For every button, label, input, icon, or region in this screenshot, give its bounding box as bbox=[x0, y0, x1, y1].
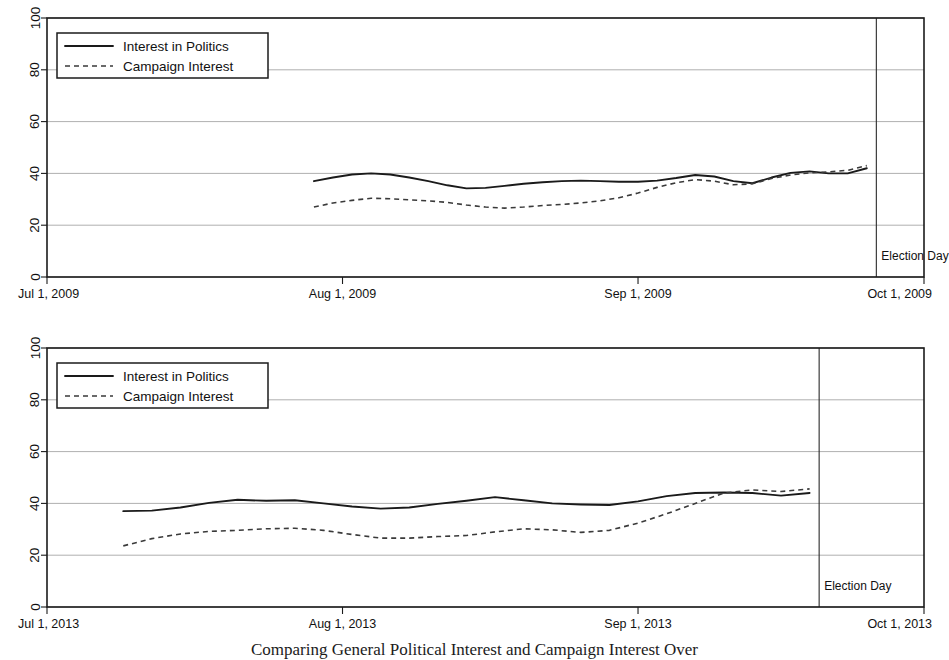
y-tick-label-60: 60 bbox=[28, 444, 43, 459]
chart-panel-2013: 020406080100Jul 1, 2013Aug 1, 2013Sep 1,… bbox=[0, 330, 949, 660]
legend-label-0: Interest in Politics bbox=[123, 39, 229, 54]
election-day-label: Election Day bbox=[881, 249, 948, 263]
legend-label-0: Interest in Politics bbox=[123, 369, 229, 384]
y-tick-label-20: 20 bbox=[28, 218, 43, 233]
y-axis: 020406080100 bbox=[28, 7, 48, 281]
y-tick-label-40: 40 bbox=[28, 496, 43, 511]
chart-svg-panel-2009: 020406080100Jul 1, 2009Aug 1, 2009Sep 1,… bbox=[0, 0, 949, 330]
legend: Interest in PoliticsCampaign Interest bbox=[57, 33, 268, 78]
series-campaign-interest bbox=[314, 166, 867, 208]
x-tick-label-3: Oct 1, 2009 bbox=[867, 287, 932, 301]
series-interest-in-politics bbox=[123, 493, 809, 512]
legend-label-1: Campaign Interest bbox=[123, 59, 234, 74]
chart-svg-panel-2013: 020406080100Jul 1, 2013Aug 1, 2013Sep 1,… bbox=[0, 330, 949, 660]
y-tick-label-0: 0 bbox=[28, 273, 43, 281]
y-tick-label-20: 20 bbox=[28, 548, 43, 563]
y-tick-label-100: 100 bbox=[28, 7, 43, 30]
x-tick-label-2: Sep 1, 2009 bbox=[604, 287, 671, 301]
x-tick-label-3: Oct 1, 2013 bbox=[867, 617, 932, 631]
x-axis: Jul 1, 2013Aug 1, 2013Sep 1, 2013Oct 1, … bbox=[18, 607, 932, 631]
election-day-label: Election Day bbox=[824, 579, 891, 593]
y-tick-label-0: 0 bbox=[28, 603, 43, 611]
y-tick-label-100: 100 bbox=[28, 337, 43, 360]
x-tick-label-1: Aug 1, 2013 bbox=[309, 617, 376, 631]
y-axis: 020406080100 bbox=[28, 337, 48, 611]
y-tick-label-60: 60 bbox=[28, 114, 43, 129]
legend: Interest in PoliticsCampaign Interest bbox=[57, 363, 268, 408]
x-tick-label-0: Jul 1, 2013 bbox=[18, 617, 79, 631]
series-campaign-interest bbox=[123, 489, 809, 546]
legend-label-1: Campaign Interest bbox=[123, 389, 234, 404]
x-tick-label-0: Jul 1, 2009 bbox=[18, 287, 79, 301]
x-tick-label-2: Sep 1, 2013 bbox=[604, 617, 671, 631]
x-tick-label-1: Aug 1, 2009 bbox=[309, 287, 376, 301]
figure-container: 020406080100Jul 1, 2009Aug 1, 2009Sep 1,… bbox=[0, 0, 949, 660]
x-axis: Jul 1, 2009Aug 1, 2009Sep 1, 2009Oct 1, … bbox=[18, 277, 932, 301]
chart-panel-2009: 020406080100Jul 1, 2009Aug 1, 2009Sep 1,… bbox=[0, 0, 949, 330]
figure-caption: Comparing General Political Interest and… bbox=[0, 640, 949, 660]
y-tick-label-40: 40 bbox=[28, 166, 43, 181]
y-tick-label-80: 80 bbox=[28, 392, 43, 407]
series-interest-in-politics bbox=[314, 168, 867, 188]
y-tick-label-80: 80 bbox=[28, 62, 43, 77]
